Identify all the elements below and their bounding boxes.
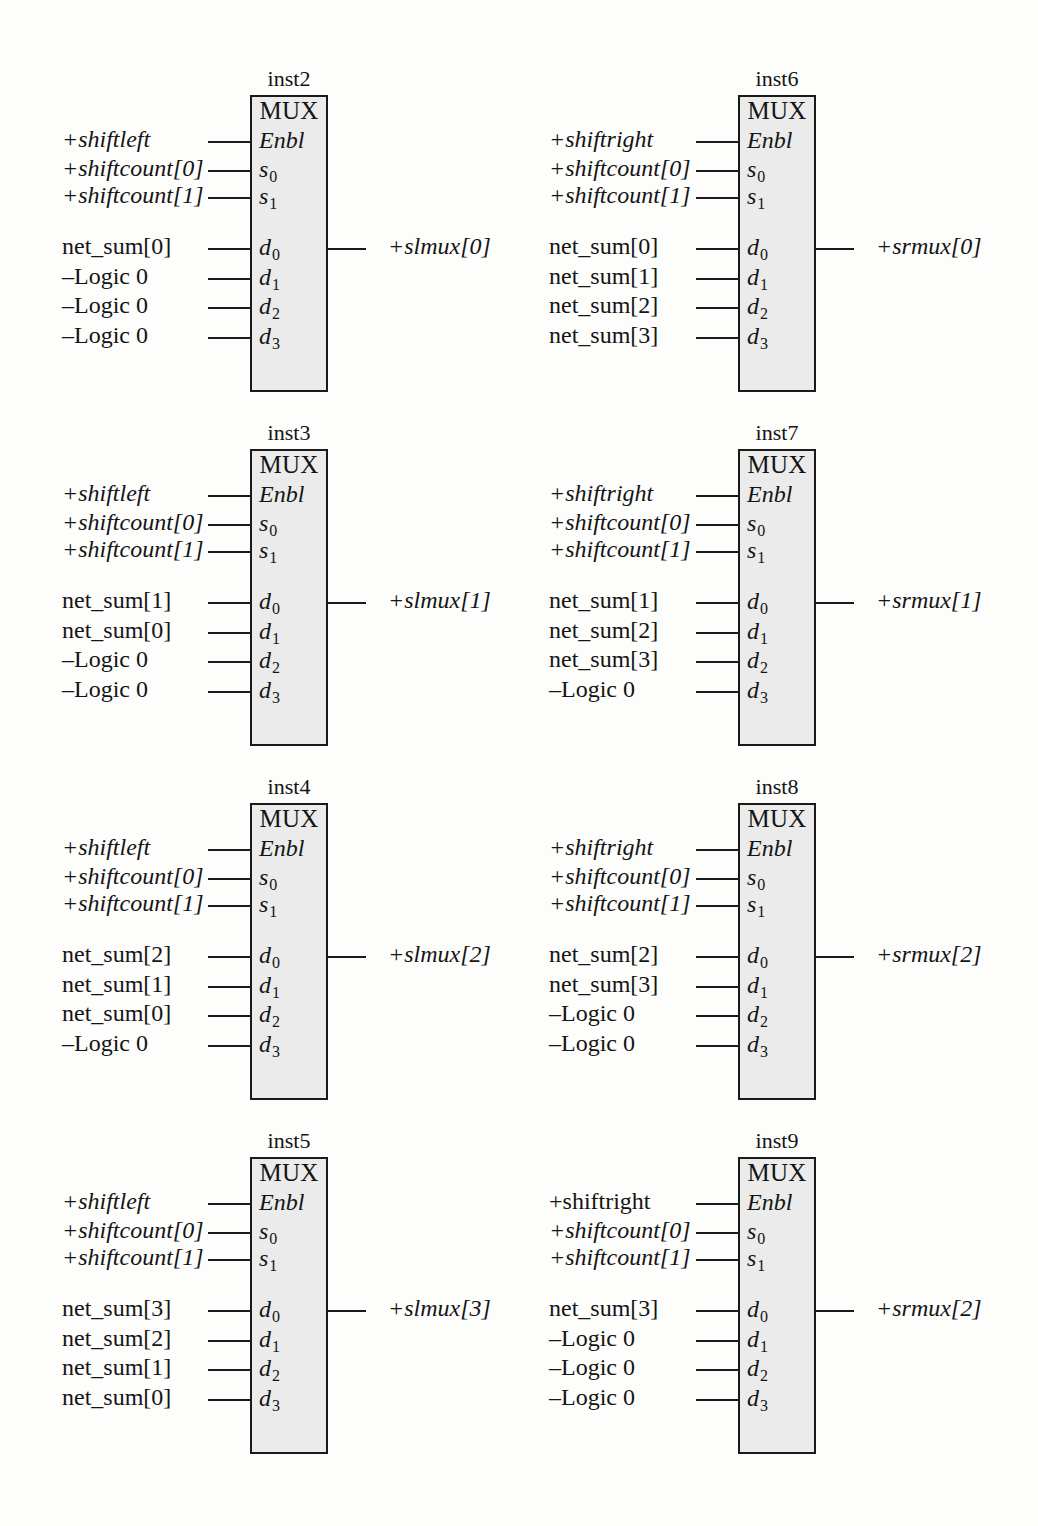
input-wire-d3	[696, 1045, 738, 1047]
pin-name-d1: d1	[747, 973, 767, 1000]
input-label-d0: net_sum[1]	[62, 588, 171, 612]
pin-name-d3: d3	[259, 1386, 279, 1413]
input-wire-enbl	[696, 849, 738, 851]
output-wire	[816, 956, 854, 958]
input-wire-d3	[208, 691, 250, 693]
pin-name-d0: d0	[747, 235, 767, 262]
pin-name-s0: s0	[259, 1219, 276, 1246]
output-label: +srmux[1]	[876, 588, 982, 612]
input-label-d2: –Logic 0	[62, 293, 148, 317]
input-label-d3: –Logic 0	[549, 677, 635, 701]
output-wire	[328, 602, 366, 604]
input-wire-d2	[208, 1369, 250, 1371]
pin-name-s1: s1	[259, 1246, 276, 1273]
pin-name-d2: d2	[747, 1356, 767, 1383]
input-wire-enbl	[208, 849, 250, 851]
pin-name-enbl: Enbl	[747, 1190, 792, 1214]
input-wire-s0	[696, 878, 738, 880]
mux-title: MUX	[738, 805, 816, 833]
input-label-d2: net_sum[1]	[62, 1355, 171, 1379]
input-label-d3: –Logic 0	[549, 1385, 635, 1409]
input-label-s1: +shiftcount[1]	[62, 891, 204, 915]
pin-name-enbl: Enbl	[259, 836, 304, 860]
input-wire-s1	[696, 551, 738, 553]
pin-name-enbl: Enbl	[747, 128, 792, 152]
input-wire-s1	[208, 905, 250, 907]
pin-name-enbl: Enbl	[259, 1190, 304, 1214]
pin-name-d0: d0	[747, 589, 767, 616]
mux-title: MUX	[250, 1159, 328, 1187]
pin-name-d2: d2	[259, 1002, 279, 1029]
pin-name-d2: d2	[259, 1356, 279, 1383]
pin-name-s0: s0	[747, 865, 764, 892]
pin-name-s1: s1	[747, 538, 764, 565]
pin-name-d2: d2	[747, 1002, 767, 1029]
input-label-d3: –Logic 0	[62, 323, 148, 347]
input-label-d3: –Logic 0	[549, 1031, 635, 1055]
input-wire-d0	[696, 602, 738, 604]
input-wire-d3	[696, 1399, 738, 1401]
input-label-s0: +shiftcount[0]	[549, 1218, 691, 1242]
input-label-enbl: +shiftright	[549, 481, 653, 505]
output-label: +srmux[2]	[876, 1296, 982, 1320]
mux-instance-name: inst4	[250, 774, 328, 800]
input-wire-s1	[696, 1259, 738, 1261]
input-wire-d3	[696, 337, 738, 339]
input-wire-d1	[208, 278, 250, 280]
input-label-s1: +shiftcount[1]	[62, 537, 204, 561]
pin-name-s0: s0	[259, 157, 276, 184]
input-wire-d3	[208, 1399, 250, 1401]
pin-name-d3: d3	[747, 678, 767, 705]
input-wire-d0	[208, 1310, 250, 1312]
input-wire-enbl	[696, 1203, 738, 1205]
pin-name-d1: d1	[259, 1327, 279, 1354]
input-label-d3: net_sum[0]	[62, 1385, 171, 1409]
pin-name-s1: s1	[747, 184, 764, 211]
input-wire-d1	[696, 1340, 738, 1342]
output-wire	[328, 956, 366, 958]
pin-name-d2: d2	[747, 648, 767, 675]
mux-title: MUX	[250, 451, 328, 479]
input-label-d3: –Logic 0	[62, 1031, 148, 1055]
input-wire-d0	[208, 248, 250, 250]
input-label-d0: net_sum[2]	[549, 942, 658, 966]
pin-name-d0: d0	[259, 943, 279, 970]
input-wire-d0	[696, 248, 738, 250]
input-label-enbl: +shiftleft	[62, 127, 150, 151]
output-label: +slmux[1]	[388, 588, 491, 612]
input-label-s0: +shiftcount[0]	[62, 510, 204, 534]
mux-instance-name: inst6	[738, 66, 816, 92]
input-label-s1: +shiftcount[1]	[549, 537, 691, 561]
mux-instance-name: inst7	[738, 420, 816, 446]
input-label-d2: net_sum[3]	[549, 647, 658, 671]
output-label: +slmux[0]	[388, 234, 491, 258]
input-wire-s0	[208, 878, 250, 880]
pin-name-s0: s0	[259, 865, 276, 892]
pin-name-d2: d2	[259, 294, 279, 321]
input-wire-s0	[696, 170, 738, 172]
input-wire-d0	[696, 1310, 738, 1312]
input-wire-s1	[208, 551, 250, 553]
input-label-d2: –Logic 0	[62, 647, 148, 671]
input-wire-d1	[208, 986, 250, 988]
mux-title: MUX	[250, 97, 328, 125]
pin-name-s1: s1	[259, 538, 276, 565]
input-wire-s0	[696, 1232, 738, 1234]
pin-name-d0: d0	[747, 1297, 767, 1324]
input-wire-d1	[696, 278, 738, 280]
input-wire-d2	[696, 1369, 738, 1371]
input-wire-d0	[696, 956, 738, 958]
pin-name-d1: d1	[259, 973, 279, 1000]
input-wire-d3	[208, 1045, 250, 1047]
input-label-enbl: +shiftleft	[62, 481, 150, 505]
pin-name-d1: d1	[747, 619, 767, 646]
input-wire-s0	[208, 1232, 250, 1234]
input-label-s1: +shiftcount[1]	[62, 1245, 204, 1269]
input-wire-d3	[208, 337, 250, 339]
input-label-d3: –Logic 0	[62, 677, 148, 701]
pin-name-d3: d3	[259, 1032, 279, 1059]
input-wire-d0	[208, 956, 250, 958]
pin-name-d3: d3	[259, 324, 279, 351]
input-label-s0: +shiftcount[0]	[62, 156, 204, 180]
pin-name-s0: s0	[747, 157, 764, 184]
